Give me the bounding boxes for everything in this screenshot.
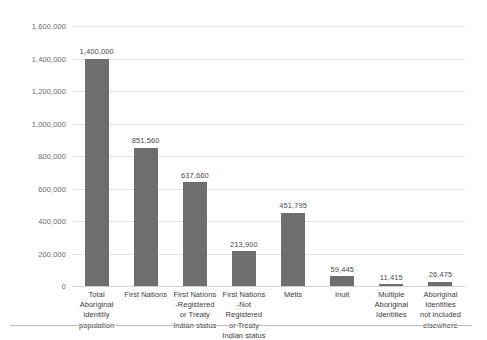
y-tick-label: 200,000 bbox=[0, 249, 66, 258]
bar-value-label: 11,415 bbox=[380, 273, 403, 282]
x-tick-label-line: -Not Registered bbox=[219, 300, 268, 320]
bar[interactable] bbox=[428, 282, 452, 286]
y-tick-label: 1,600,000 bbox=[0, 22, 66, 31]
x-tick-label-line: Identities bbox=[416, 300, 465, 310]
x-tick-label-line: not included bbox=[416, 310, 465, 320]
y-tick-label: 1,400,000 bbox=[0, 54, 66, 63]
bar-value-label: 637,660 bbox=[181, 171, 209, 180]
bar-slot: 851,560 bbox=[121, 26, 170, 286]
bar[interactable] bbox=[134, 148, 158, 286]
x-tick-label-line: Inuit bbox=[318, 290, 367, 300]
bar-value-label: 59,445 bbox=[330, 265, 354, 274]
x-tick-label-line: Métis bbox=[269, 290, 318, 300]
x-axis: TotalAboriginalidentitlypopulationFirst … bbox=[72, 290, 465, 336]
bar[interactable] bbox=[281, 213, 305, 286]
x-tick-label: MultipleAboriginalIdentities bbox=[367, 290, 416, 321]
x-tick-label-line: Indian status bbox=[219, 331, 268, 340]
y-tick-label: 800,000 bbox=[0, 152, 66, 161]
bar[interactable] bbox=[379, 284, 403, 286]
x-tick-label-line: Aboriginal bbox=[416, 290, 465, 300]
bar[interactable] bbox=[183, 182, 207, 286]
bar-value-label: 26,475 bbox=[429, 270, 453, 279]
bar-slot: 26,475 bbox=[416, 26, 465, 286]
bar-slot: 59,445 bbox=[318, 26, 367, 286]
y-tick-label: 1,200,000 bbox=[0, 87, 66, 96]
y-tick-label: 600,000 bbox=[0, 184, 66, 193]
bottom-divider bbox=[10, 325, 472, 326]
bar-slot: 637,660 bbox=[170, 26, 219, 286]
axis-baseline bbox=[72, 286, 465, 287]
x-tick-label-line: Total bbox=[72, 290, 121, 300]
x-tick-label: First Nations bbox=[121, 290, 170, 300]
x-tick-label-line: Multiple bbox=[367, 290, 416, 300]
x-tick-label-line: Aboriginal bbox=[72, 300, 121, 310]
x-tick-label-line: First Nations bbox=[219, 290, 268, 300]
bar[interactable] bbox=[232, 251, 256, 286]
bar-value-label: 1,400,000 bbox=[79, 47, 113, 56]
y-axis: 1,600,0001,400,0001,200,0001,000,000800,… bbox=[0, 26, 66, 286]
y-tick-label: 400,000 bbox=[0, 217, 66, 226]
bar-slot: 213,900 bbox=[219, 26, 268, 286]
bar-value-label: 851,560 bbox=[132, 136, 160, 145]
x-tick-label: First Nations-Not Registeredor TreatyInd… bbox=[219, 290, 268, 340]
x-tick-label-line: -Registered bbox=[170, 300, 219, 310]
x-tick-label-line: or Treaty bbox=[170, 310, 219, 320]
bars-layer: 1,400,000851,560637,660213,900451,79559,… bbox=[72, 26, 465, 286]
x-tick-label: Inuit bbox=[318, 290, 367, 300]
bar[interactable] bbox=[330, 276, 354, 286]
bar-value-label: 213,900 bbox=[230, 240, 258, 249]
x-tick-label-line: Identities bbox=[367, 310, 416, 320]
x-tick-label-line: Aboriginal bbox=[367, 300, 416, 310]
x-tick-label-line: First Nations bbox=[170, 290, 219, 300]
bar-slot: 11,415 bbox=[367, 26, 416, 286]
bar[interactable] bbox=[85, 59, 109, 287]
y-tick-label: 1,000,000 bbox=[0, 119, 66, 128]
bar-value-label: 451,795 bbox=[279, 201, 307, 210]
x-tick-label-line: First Nations bbox=[121, 290, 170, 300]
x-tick-label: Métis bbox=[269, 290, 318, 300]
bar-chart-figure: 1,600,0001,400,0001,200,0001,000,000800,… bbox=[0, 0, 487, 340]
y-tick-label: 0 bbox=[0, 282, 66, 291]
x-tick-label-line: identitly bbox=[72, 310, 121, 320]
bar-slot: 451,795 bbox=[269, 26, 318, 286]
bar-slot: 1,400,000 bbox=[72, 26, 121, 286]
